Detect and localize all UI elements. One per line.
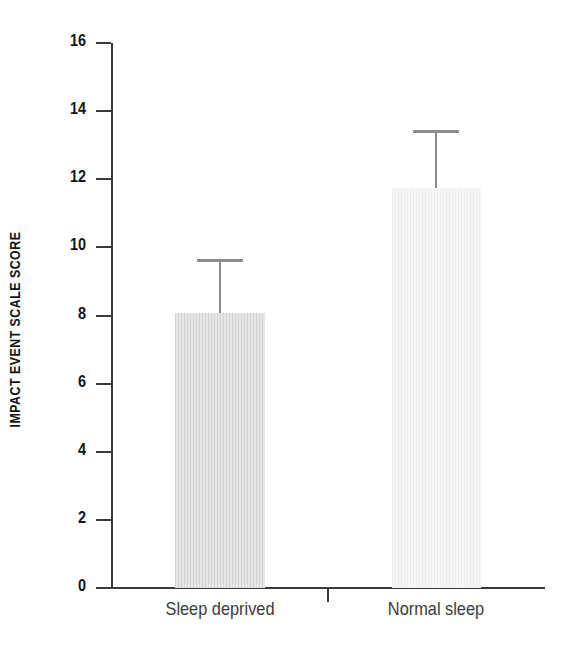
y-axis-tick-label: 14 <box>52 100 86 117</box>
figure-bar-chart: IMPACT EVENT SCALE SCORE 1614121086420 S… <box>0 0 576 659</box>
x-axis-tick-mark <box>327 588 329 602</box>
y-axis-tick-mark <box>96 110 111 112</box>
x-axis-category-label: Normal sleep <box>350 598 522 620</box>
bar-sleep-deprived <box>175 313 265 588</box>
y-axis-tick-mark <box>96 178 111 180</box>
y-axis-tick-mark <box>96 519 111 521</box>
error-bar-stem <box>219 259 221 313</box>
y-axis-tick-label: 6 <box>52 373 86 390</box>
x-axis-category-label: Sleep deprived <box>134 598 306 620</box>
y-axis-tick-label: 16 <box>52 32 86 49</box>
y-axis-tick-label: 10 <box>52 236 86 253</box>
y-axis-tick-mark <box>96 451 111 453</box>
y-axis-tick-mark <box>96 246 111 248</box>
y-axis-tick-mark <box>96 383 111 385</box>
bar-normal-sleep <box>392 188 481 588</box>
y-axis-tick-label: 2 <box>52 509 86 526</box>
y-axis-tick-mark <box>96 42 111 44</box>
error-bar-stem <box>435 130 437 188</box>
error-bar-cap <box>197 259 243 262</box>
y-axis-tick-label: 4 <box>52 441 86 458</box>
error-bar-cap <box>413 130 459 133</box>
plot-area: 1614121086420 Sleep deprivedNormal sleep <box>0 0 576 659</box>
y-axis-tick-mark <box>96 587 111 589</box>
y-axis-line <box>111 43 113 589</box>
y-axis-tick-label: 8 <box>52 305 86 322</box>
y-axis-tick-label: 0 <box>52 577 86 594</box>
y-axis-tick-mark <box>96 315 111 317</box>
y-axis-tick-label: 12 <box>52 168 86 185</box>
